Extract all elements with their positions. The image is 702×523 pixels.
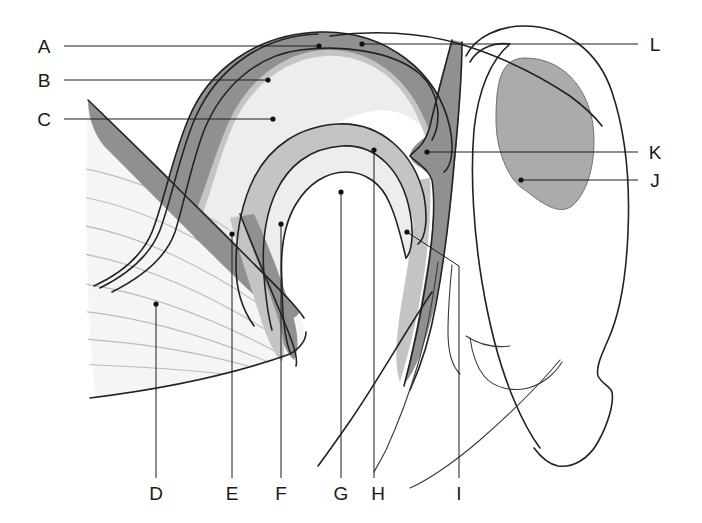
label-L: L: [650, 34, 661, 55]
leader-dot-A: [316, 43, 321, 48]
outline-jaw-extension: [466, 336, 510, 347]
label-F: F: [275, 483, 287, 504]
outline-chin-contour: [470, 338, 562, 390]
label-G: G: [334, 483, 349, 504]
label-I: I: [456, 483, 461, 504]
leader-dot-C: [270, 116, 275, 121]
leader-H: [371, 147, 376, 478]
leader-dot-I: [404, 229, 409, 234]
leader-dot-G: [338, 189, 343, 194]
anatomical-diagram-figure: A B C D E F G H I J K L: [0, 0, 702, 523]
leader-dot-E: [229, 231, 234, 236]
label-A: A: [38, 36, 51, 57]
label-C: C: [37, 109, 51, 130]
leader-dot-D: [153, 301, 158, 306]
label-K: K: [649, 142, 662, 163]
outline-neck-contour-upper: [448, 265, 460, 374]
label-D: D: [149, 483, 163, 504]
leader-dot-K: [424, 149, 429, 154]
leader-dot-J: [518, 177, 523, 182]
leader-L: [359, 41, 638, 46]
outline-shoulder-line: [410, 360, 560, 488]
label-H: H: [371, 483, 385, 504]
leader-dot-L: [359, 41, 364, 46]
leader-dot-F: [278, 221, 283, 226]
label-J: J: [650, 170, 660, 191]
diagram-canvas: A B C D E F G H I J K L: [0, 0, 702, 523]
leader-dot-H: [371, 147, 376, 152]
leader-dot-B: [265, 77, 270, 82]
label-B: B: [38, 70, 51, 91]
label-E: E: [226, 483, 239, 504]
leader-G: [338, 189, 343, 478]
